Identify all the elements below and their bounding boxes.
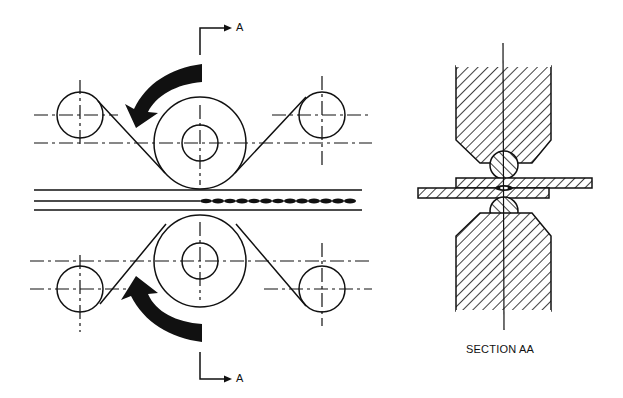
section-marker-bottom-label: A: [236, 372, 243, 384]
lower-centerlines: [30, 222, 372, 332]
section-arrowhead-top: [224, 25, 232, 32]
upper-plate-section: [456, 178, 592, 188]
section-marker-top-label: A: [236, 21, 243, 33]
section-marker-bottom: [200, 352, 225, 379]
section-marker-top: [200, 28, 225, 55]
lower-plate-section: [418, 188, 549, 198]
section-caption: SECTION AA: [466, 343, 534, 355]
weld-seam: [200, 198, 356, 203]
section-arrowhead-bottom: [224, 376, 232, 383]
seam-welding-diagram: [0, 0, 623, 398]
upper-rotation-arrow-icon: [125, 64, 202, 128]
section-aa-view: [418, 43, 592, 330]
